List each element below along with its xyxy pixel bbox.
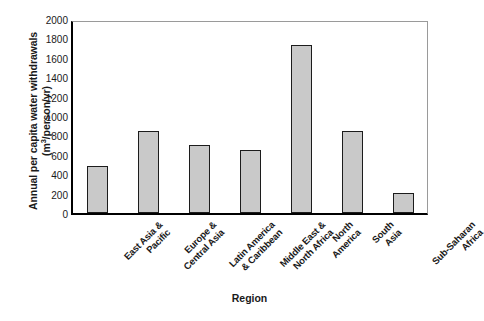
y-tick-label: 1000 (28, 113, 68, 123)
bar (240, 150, 261, 213)
y-tick-label: 400 (28, 171, 68, 181)
x-tick-label: SouthAsia (369, 219, 403, 253)
y-tick-label: 1800 (28, 35, 68, 45)
bar (189, 145, 210, 213)
y-tick-label: 0 (28, 210, 68, 220)
y-tick-label: 1200 (28, 94, 68, 104)
bar (87, 166, 108, 213)
bar (393, 193, 414, 213)
y-tick-label: 2000 (28, 16, 68, 26)
x-axis-title: Region (71, 292, 428, 304)
y-tick-label: 1600 (28, 55, 68, 65)
x-tick-label: Europe &Central Asia (173, 219, 226, 272)
plot-area (71, 21, 428, 215)
y-tick-label: 600 (28, 152, 68, 162)
y-tick-label: 1400 (28, 74, 68, 84)
bar (342, 131, 363, 213)
x-tick-label: Latin America& Caribbean (226, 219, 284, 277)
x-tick-label: Sub-SaharanAfrica (429, 219, 484, 274)
x-tick-label: East Asia &Pacific (121, 219, 172, 270)
y-tick-label: 200 (28, 191, 68, 201)
y-tick-label: 800 (28, 132, 68, 142)
bar (291, 45, 312, 213)
bar (138, 131, 159, 213)
